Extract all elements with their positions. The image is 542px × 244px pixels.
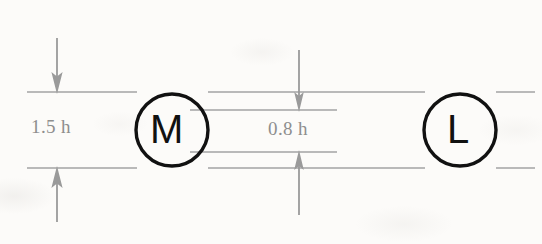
dimension-label-middle: 0.8 h bbox=[268, 118, 308, 140]
dimension-arrow-middle-up bbox=[294, 150, 304, 215]
node-label-l: L bbox=[447, 109, 469, 149]
dimension-arrow-left-up bbox=[51, 166, 62, 222]
dimension-arrow-left-down bbox=[51, 38, 62, 94]
dimension-arrow-middle-down bbox=[294, 50, 304, 112]
figure-canvas: 1.5 h 0.8 h M L bbox=[0, 0, 542, 244]
node-label-m: M bbox=[150, 109, 183, 149]
dimension-label-left: 1.5 h bbox=[31, 116, 71, 138]
